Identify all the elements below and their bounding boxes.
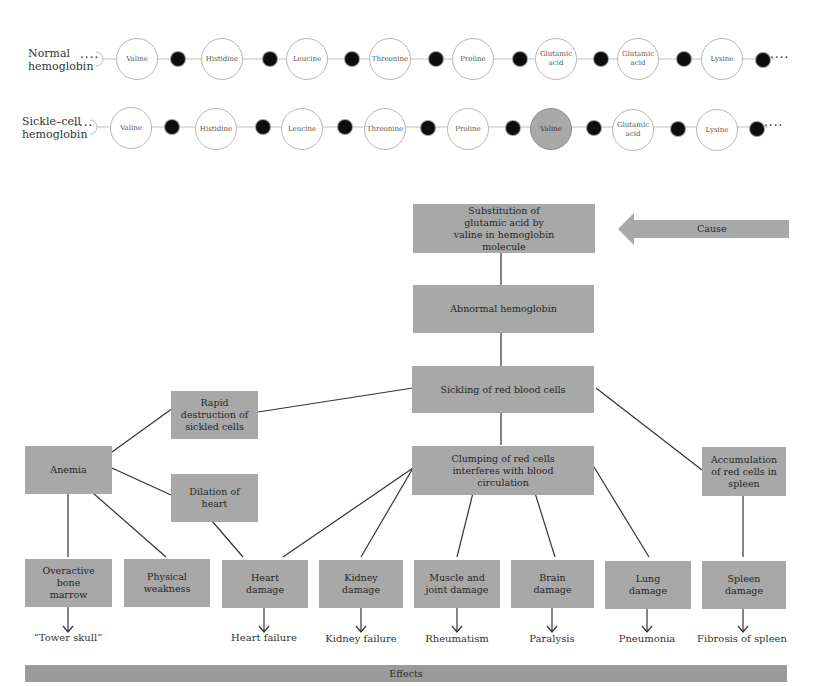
box-substitution: Substitution of glutamic acid by valine … (413, 204, 595, 253)
outcome-heart-failure: Heart failure (209, 632, 319, 643)
effects-bar: Effects (25, 665, 787, 682)
amino-acid-residue: Leucine (281, 108, 323, 150)
outcome-pneumonia: Pneumonia (592, 633, 702, 644)
peptide-bond-dot (345, 52, 359, 66)
box-heart-damage: Heart damage (222, 560, 308, 608)
mutated-valine-residue: Valine (530, 108, 572, 150)
peptide-bond-dot (671, 122, 685, 136)
peptide-bond-dot (165, 120, 179, 134)
box-brain-damage: Brain damage (511, 560, 594, 608)
normal-leading-dots: ···· (80, 51, 99, 65)
amino-acid-residue: Histidine (195, 108, 237, 150)
outcome-fibrosis-spleen: Fibrosis of spleen (687, 633, 797, 644)
amino-acid-residue: Lysine (696, 109, 738, 151)
amino-acid-residue: Histidine (201, 38, 243, 80)
normal-trailing-dots: ···· (770, 51, 789, 65)
box-abnormal-hemoglobin: Abnormal hemoglobin (413, 285, 594, 333)
peptide-bond-dot (171, 52, 185, 66)
amino-acid-residue: Threonine (369, 38, 411, 80)
amino-acid-residue: Glutamicacid (612, 109, 654, 151)
amino-acid-residue: Proline (447, 108, 489, 150)
box-anemia: Anemia (25, 446, 112, 494)
amino-acid-residue: Threonine (364, 108, 406, 150)
box-physical-weakness: Physical weakness (124, 559, 210, 607)
sickle-trailing-dots: ···· (764, 119, 783, 133)
amino-acid-residue: Valine (110, 107, 152, 149)
cause-arrow-label: Cause (697, 223, 727, 234)
amino-acid-residue: Lysine (701, 38, 743, 80)
peptide-bond-dot (429, 52, 443, 66)
outcome-tower-skull: “Tower skull” (13, 632, 123, 643)
outcome-paralysis: Paralysis (497, 633, 607, 644)
box-clumping: Clumping of red cells interferes with bl… (412, 446, 594, 495)
box-bone-marrow: Overactive bone marrow (25, 559, 112, 607)
box-sickling: Sickling of red blood cells (412, 366, 594, 413)
box-dilation-heart: Dilation of heart (171, 474, 258, 522)
box-rapid-destruction: Rapid destruction of sickled cells (171, 391, 258, 439)
outcome-rheumatism: Rheumatism (402, 633, 512, 644)
peptide-bond-dot (750, 122, 764, 136)
peptide-bond-dot (256, 120, 270, 134)
box-lung-damage: Lung damage (605, 561, 691, 609)
peptide-bond-dot (756, 53, 770, 67)
amino-acid-residue: Leucine (286, 38, 328, 80)
peptide-bond-dot (506, 121, 520, 135)
amino-acid-residue: Glutamicacid (617, 38, 659, 80)
peptide-bond-dot (338, 120, 352, 134)
amino-acid-residue: Valine (116, 38, 158, 80)
amino-acid-residue: Proline (452, 38, 494, 80)
sickle-leading-dots: ···· (74, 119, 93, 133)
peptide-bond-dot (263, 52, 277, 66)
peptide-bond-dot (594, 52, 608, 66)
peptide-bond-dot (513, 52, 527, 66)
peptide-bond-dot (677, 52, 691, 66)
box-accumulation-spleen: Accumulation of red cells in spleen (702, 447, 786, 496)
box-muscle-joint-damage: Muscle and joint damage (414, 560, 500, 608)
box-spleen-damage: Spleen damage (702, 561, 786, 609)
amino-acid-residue: Glutamicacid (535, 38, 577, 80)
box-kidney-damage: Kidney damage (319, 560, 403, 608)
peptide-bond-dot (587, 121, 601, 135)
peptide-bond-dot (421, 121, 435, 135)
outcome-kidney-failure: Kidney failure (306, 633, 416, 644)
effects-bar-label: Effects (389, 668, 422, 679)
